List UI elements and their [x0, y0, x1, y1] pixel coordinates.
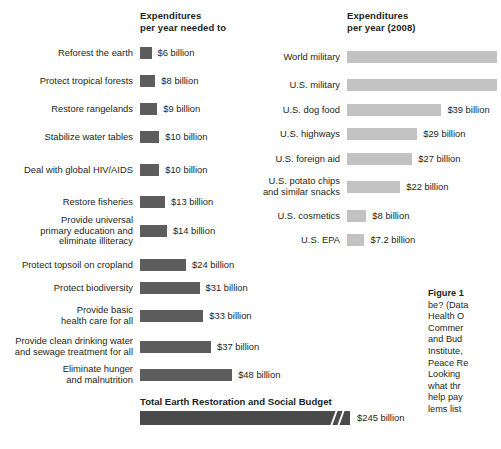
bar [140, 164, 159, 176]
bar [347, 79, 497, 91]
category-label: U.S. military [289, 80, 340, 91]
caption-line: lems list [428, 404, 501, 416]
category-label: Protect tropical forests [40, 76, 133, 87]
bar [140, 225, 167, 237]
category-label: Provide basic health care for all [61, 305, 133, 327]
bar-value-label: $31 billion [206, 282, 248, 294]
bar-value-label: $9 billion [163, 103, 200, 115]
figure-caption: Figure 1 be? (DataHealth OCommerand BudI… [428, 288, 501, 416]
category-label: Deal with global HIV/AIDS [24, 165, 133, 176]
category-label: Protect biodiversity [54, 283, 133, 294]
bar [140, 259, 186, 271]
category-label: Restore rangelands [51, 104, 133, 115]
category-label: Stabilize water tables [44, 132, 133, 143]
category-label: Reforest the earth [58, 48, 133, 59]
caption-heading: Figure 1 [428, 288, 501, 300]
category-label: Provide clean drinking water and sewage … [15, 336, 133, 358]
caption-line: what thr [428, 381, 501, 393]
caption-line: be? (Data [428, 300, 501, 312]
bar [140, 369, 232, 381]
caption-line: Institute, [428, 346, 501, 358]
caption-line: Peace Re [428, 358, 501, 370]
category-label: World military [283, 52, 340, 63]
bar [140, 103, 157, 115]
caption-line: Health O [428, 311, 501, 323]
bar-value-label: $29 billion [423, 128, 465, 140]
category-label: U.S. EPA [301, 235, 340, 246]
bar [347, 181, 400, 193]
bar-value-label: $37 billion [217, 341, 259, 353]
category-label: U.S. potato chips and similar snacks [263, 176, 340, 198]
bar [140, 131, 159, 143]
category-label: Eliminate hunger and malnutrition [63, 364, 133, 386]
bar [140, 341, 211, 353]
caption-line: Commer [428, 323, 501, 335]
bar-value-label: $39 billion [447, 104, 489, 116]
category-label: U.S. foreign aid [275, 154, 340, 165]
bar [347, 51, 497, 63]
bar-value-label: $22 billion [406, 181, 448, 193]
column-header-needed: Expenditures per year needed to [140, 10, 226, 33]
bar-value-label: $8 billion [372, 210, 409, 222]
bar [347, 153, 412, 165]
category-label: U.S. highways [280, 129, 340, 140]
bar-value-label: $48 billion [238, 369, 280, 381]
category-label: U.S. dog food [283, 105, 340, 116]
category-label: Restore fisheries [63, 197, 133, 208]
bar [140, 196, 165, 208]
column-header-actual: Expenditures per year (2008) [347, 10, 416, 33]
bar [140, 75, 155, 87]
caption-line: Looking [428, 369, 501, 381]
total-budget-value: $245 billion [357, 411, 404, 425]
bar-value-label: $8 billion [161, 75, 198, 87]
total-budget-title: Total Earth Restoration and Social Budge… [140, 396, 332, 407]
bar-value-label: $24 billion [192, 259, 234, 271]
bar [140, 282, 200, 294]
bar [140, 310, 203, 322]
bar [347, 128, 417, 140]
bar-value-label: $6 billion [158, 47, 195, 59]
category-label: Protect topsoil on cropland [22, 260, 133, 271]
total-budget-bar [140, 411, 350, 425]
category-label: U.S. cosmetics [277, 211, 340, 222]
bar-value-label: $33 billion [209, 310, 251, 322]
category-label: Provide universal primary education and … [40, 215, 133, 247]
bar-value-label: $10 billion [165, 164, 207, 176]
bar [140, 47, 152, 59]
caption-line: and Bud [428, 334, 501, 346]
bar [347, 210, 366, 222]
bar-value-label: $10 billion [165, 131, 207, 143]
caption-line: help pay [428, 392, 501, 404]
bar-value-label: $27 billion [418, 153, 460, 165]
bar [347, 234, 364, 246]
bar-value-label: $7.2 billion [370, 234, 415, 246]
bar [347, 104, 441, 116]
bar-value-label: $13 billion [171, 196, 213, 208]
bar-value-label: $14 billion [173, 225, 215, 237]
